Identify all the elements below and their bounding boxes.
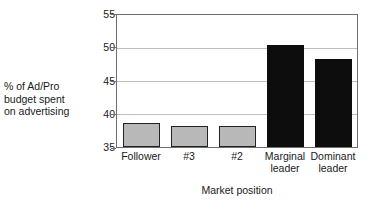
x-tick-label-3: Marginal leader: [261, 151, 309, 174]
bar-1: [171, 126, 208, 147]
x-tick-label-0: Follower: [117, 151, 165, 163]
x-tick-label-1: #3: [165, 151, 213, 163]
x-tick-label-4: Dominant leader: [309, 151, 357, 174]
x-axis-title: Market position: [116, 184, 358, 196]
bar-0: [123, 123, 160, 147]
gridline-50: [117, 48, 357, 49]
bar-3: [267, 45, 304, 147]
y-tick-mark-35: [111, 148, 116, 149]
plot-area: [116, 14, 358, 148]
y-axis-title: % of Ad/Pro budget spent on advertising: [4, 80, 96, 118]
bar-2: [219, 126, 256, 147]
x-tick-label-2: #2: [213, 151, 261, 163]
bar-4: [315, 59, 352, 147]
